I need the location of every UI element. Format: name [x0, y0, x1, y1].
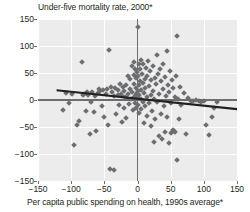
x-tick-mark — [138, 181, 139, 184]
x-tick-label: 150 — [230, 185, 244, 194]
data-point — [69, 91, 75, 97]
x-tick-label: −100 — [62, 185, 81, 194]
data-point — [106, 47, 112, 53]
x-axis-label: Per capita public spending on health, 19… — [0, 197, 250, 207]
data-point — [206, 132, 212, 138]
data-point — [141, 120, 147, 126]
x-tick-label: 0 — [135, 185, 140, 194]
data-point — [161, 104, 167, 110]
data-point — [145, 58, 151, 64]
data-point — [183, 131, 189, 137]
data-point — [94, 128, 100, 134]
y-tick-mark — [34, 127, 37, 128]
plot-area — [38, 19, 237, 181]
data-point — [161, 62, 167, 68]
x-tick-label: −150 — [28, 185, 47, 194]
data-point — [175, 96, 181, 102]
data-point — [111, 167, 117, 173]
x-tick-mark — [237, 181, 238, 184]
y-tick-label: 50 — [25, 69, 34, 78]
data-point — [153, 81, 159, 87]
data-point — [63, 90, 69, 96]
data-point — [87, 131, 93, 137]
data-point — [172, 130, 178, 136]
chart-figure: Under-five mortality rate, 2000* 1501005… — [0, 0, 250, 212]
data-point — [174, 33, 180, 39]
y-tick-label: 150 — [20, 15, 34, 24]
data-point — [121, 105, 127, 111]
data-point — [157, 91, 163, 97]
y-tick-mark — [34, 73, 37, 74]
y-tick-mark — [34, 100, 37, 101]
x-tick-mark — [71, 181, 72, 184]
y-tick-mark — [34, 19, 37, 20]
data-point — [154, 52, 160, 58]
data-point — [91, 109, 97, 115]
data-point — [135, 24, 141, 30]
data-point — [177, 84, 183, 90]
data-point — [174, 157, 180, 163]
y-tick-label: −100 — [15, 150, 34, 159]
y-tick-label: −50 — [20, 123, 34, 132]
data-point — [79, 59, 85, 65]
x-tick-label: 50 — [166, 185, 175, 194]
data-point — [60, 107, 66, 113]
data-point — [151, 139, 157, 145]
data-point — [158, 111, 164, 117]
data-point — [83, 108, 89, 114]
x-tick-label: −50 — [97, 185, 111, 194]
data-point — [212, 105, 218, 111]
data-point — [145, 113, 151, 119]
y-tick-label: 100 — [20, 42, 34, 51]
data-point — [210, 114, 216, 120]
x-tick-mark — [104, 181, 105, 184]
data-point — [176, 116, 182, 122]
data-point — [101, 114, 107, 120]
data-point — [153, 116, 159, 122]
data-point — [170, 85, 176, 91]
x-tick-mark — [38, 181, 39, 184]
data-point — [178, 102, 184, 108]
data-point — [181, 90, 187, 96]
data-point — [113, 111, 119, 117]
x-tick-label: 100 — [197, 185, 211, 194]
data-point — [164, 48, 170, 54]
data-point — [160, 86, 166, 92]
data-point — [149, 108, 155, 114]
x-axis-ticks: −150−100−50050100150 — [38, 181, 237, 197]
x-tick-mark — [204, 181, 205, 184]
y-tick-mark — [34, 181, 37, 182]
chart-title: Under-five mortality rate, 2000* — [38, 2, 152, 12]
y-tick-mark — [34, 154, 37, 155]
data-point — [165, 114, 171, 120]
y-axis-ticks: 150100500−50−100−150 — [0, 19, 34, 181]
x-tick-mark — [171, 181, 172, 184]
data-point — [159, 136, 165, 142]
data-point — [119, 119, 125, 125]
y-tick-mark — [34, 46, 37, 47]
